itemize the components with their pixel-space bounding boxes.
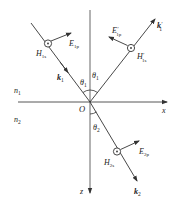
h1s-prime-label: H′1s bbox=[136, 52, 147, 63]
h2s-label: H2s bbox=[103, 158, 114, 168]
theta2-arc bbox=[90, 112, 97, 114]
e1p-arrow bbox=[51, 33, 71, 41]
e2p-arrow bbox=[121, 141, 140, 150]
theta2-label: θ2 bbox=[93, 123, 100, 133]
k2-label: k2 bbox=[134, 187, 141, 197]
origin-label: O bbox=[79, 104, 85, 114]
x-axis-label: x bbox=[161, 106, 166, 115]
k1-label: k1 bbox=[57, 73, 64, 83]
h1s-label: H1s bbox=[35, 49, 46, 59]
theta1-reflected-label: θ1 bbox=[92, 71, 99, 81]
n1-label: n1 bbox=[14, 86, 21, 96]
theta1-incident-label: θ1 bbox=[80, 78, 87, 88]
e1p-prime-label: E′1p bbox=[111, 26, 122, 37]
theta1-incident-arc bbox=[83, 90, 90, 93]
incident-k-arrow bbox=[60, 62, 68, 73]
theta1-reflected-arc bbox=[90, 90, 98, 93]
e2p-label: E2p bbox=[138, 147, 149, 157]
z-axis-label: z bbox=[79, 187, 84, 196]
n2-label: n2 bbox=[14, 115, 21, 125]
e1p-label: E1p bbox=[68, 39, 79, 49]
fresnel-diagram: n1 n2 O x z θ1 θ1 θ2 H1s E1p k1 k′1 E′1p… bbox=[0, 0, 173, 201]
e1p-prime-arrow bbox=[109, 37, 128, 46]
diagram-canvas: n1 n2 O x z θ1 θ1 θ2 H1s E1p k1 k′1 E′1p… bbox=[0, 0, 173, 201]
refracted-ray bbox=[90, 102, 137, 181]
k1-prime-label: k′1 bbox=[157, 21, 163, 32]
